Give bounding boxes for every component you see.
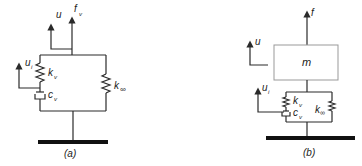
spring-kinf-icon xyxy=(102,74,110,93)
label-ui-sub: i xyxy=(31,64,33,70)
dashpot-cv-icon xyxy=(282,111,290,122)
label-kv-sub: v xyxy=(299,102,303,108)
label-f-sub: v xyxy=(79,11,83,17)
ground-icon xyxy=(266,136,355,140)
displacement-u-arrow-icon xyxy=(250,44,268,65)
label-cv-sub: v xyxy=(54,96,58,102)
spring-kinf-icon xyxy=(329,101,335,111)
internal-displacement-ui-arrow-icon xyxy=(258,91,284,112)
spring-kv-icon xyxy=(36,63,44,82)
caption-a: (a) xyxy=(64,148,76,159)
label-cv-sub: v xyxy=(299,114,303,120)
spring-kv-icon xyxy=(283,97,289,107)
label-cv: c xyxy=(293,107,298,118)
label-cv: c xyxy=(48,89,53,100)
displacement-u-arrow-icon xyxy=(51,27,72,49)
dashpot-cv-icon xyxy=(35,92,45,111)
panel-a: u f v u i k v c v k ∞ (a) xyxy=(19,3,126,159)
caption-b: (b) xyxy=(303,147,315,158)
label-f: f xyxy=(74,3,78,14)
label-f: f xyxy=(311,7,315,18)
panel-b: u f m u i k v c v k ∞ (b) xyxy=(250,7,355,158)
viscoelastic-model-diagram: u f v u i k v c v k ∞ (a) xyxy=(0,0,362,166)
label-m: m xyxy=(302,56,311,68)
ground-icon xyxy=(38,140,108,144)
label-kinf-sub: ∞ xyxy=(120,85,126,94)
label-ui-sub: i xyxy=(268,89,270,95)
label-u: u xyxy=(255,36,261,47)
label-u: u xyxy=(56,9,62,20)
label-kv-sub: v xyxy=(54,74,58,80)
label-kinf-sub: ∞ xyxy=(320,109,325,116)
